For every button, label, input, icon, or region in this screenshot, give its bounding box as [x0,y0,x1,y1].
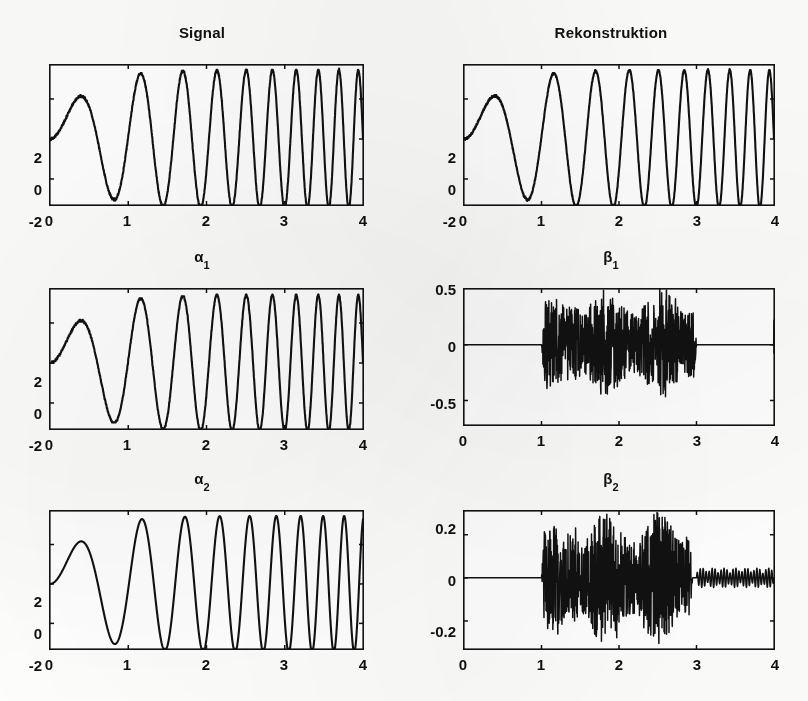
ytick-signal-2: 2 [0,149,42,166]
ytick-signal-0: 0 [0,181,42,198]
ytick-alpha1-2: 2 [0,373,42,390]
ytick-alpha2-2: 2 [0,593,42,610]
panel-title-alpha1-subscript: 1 [204,259,210,271]
xtick-beta2-1: 1 [537,656,545,673]
xtick-rekonstruktion-2: 2 [615,212,623,229]
plot-area-alpha1 [49,288,364,430]
panel-title-beta2: β2 [414,470,808,490]
xtick-beta1-1: 1 [537,432,545,449]
panel-title-beta2-text: β [603,470,612,487]
panel-title-beta1-text: β [603,248,612,265]
figure-canvas: Signal 2 0 -2 0 1 2 3 4 Rekonstruktion [0,0,808,701]
plot-svg-alpha2 [49,510,364,650]
xtick-signal-1: 1 [123,212,131,229]
xtick-alpha2-0: 0 [45,656,53,673]
xtick-rekonstruktion-3: 3 [693,212,701,229]
panel-title-rekonstruktion: Rekonstruktion [414,24,808,41]
panel-title-beta1: β1 [414,248,808,268]
panel-title-beta2-subscript: 2 [613,481,619,493]
xtick-signal-0: 0 [45,212,53,229]
ytick-beta1-0: 0 [414,338,456,355]
panel-title-alpha1: α1 [0,248,404,268]
ytick-beta2-neg: -0.2 [414,623,456,640]
plot-area-beta2 [463,510,775,650]
xtick-beta2-4: 4 [771,656,779,673]
panel-title-signal-text: Signal [179,24,225,41]
ytick-beta2-pos: 0.2 [414,520,456,537]
ytick-alpha1-0: 0 [0,405,42,422]
xtick-beta1-3: 3 [693,432,701,449]
panel-alpha2: α2 2 0 -2 0 1 2 3 4 [0,470,404,686]
xtick-alpha1-1: 1 [123,436,131,453]
plot-area-rekonstruktion [463,64,775,206]
panel-title-rekonstruktion-text: Rekonstruktion [555,24,668,41]
panel-title-alpha1-text: α [194,248,203,265]
xtick-alpha2-3: 3 [280,656,288,673]
xtick-beta2-2: 2 [615,656,623,673]
xtick-rekonstruktion-1: 1 [537,212,545,229]
xtick-alpha1-4: 4 [359,436,367,453]
ytick-signal-neg2: -2 [0,213,42,230]
xtick-signal-2: 2 [202,212,210,229]
ytick-alpha2-neg2: -2 [0,657,42,674]
xtick-alpha1-0: 0 [45,436,53,453]
panel-beta1: β1 0.5 0 -0.5 0 1 2 3 4 [414,248,808,464]
panel-signal: Signal 2 0 -2 0 1 2 3 4 [0,24,404,240]
panel-beta2: β2 0.2 0 -0.2 0 1 2 3 4 [414,470,808,686]
plot-svg-beta2 [463,510,775,650]
plot-area-alpha2 [49,510,364,650]
plot-svg-signal [49,64,364,206]
ytick-alpha2-0: 0 [0,625,42,642]
xtick-alpha1-3: 3 [280,436,288,453]
ytick-rekonstruktion-0: 0 [414,181,456,198]
xtick-beta2-0: 0 [459,656,467,673]
ytick-alpha1-neg2: -2 [0,437,42,454]
plot-area-beta1 [463,288,775,426]
panel-title-signal: Signal [0,24,404,41]
xtick-alpha1-2: 2 [202,436,210,453]
plot-svg-beta1 [463,288,775,426]
ytick-rekonstruktion-2: 2 [414,149,456,166]
plot-area-signal [49,64,364,206]
xtick-alpha2-1: 1 [123,656,131,673]
xtick-alpha2-4: 4 [359,656,367,673]
panel-title-alpha2: α2 [0,470,404,490]
xtick-rekonstruktion-0: 0 [459,212,467,229]
panel-rekonstruktion: Rekonstruktion 2 0 -2 0 1 2 3 4 [414,24,808,240]
xtick-rekonstruktion-4: 4 [771,212,779,229]
panel-title-alpha2-subscript: 2 [204,481,210,493]
plot-svg-alpha1 [49,288,364,430]
xtick-beta2-3: 3 [693,656,701,673]
xtick-alpha2-2: 2 [202,656,210,673]
ytick-beta1-neg: -0.5 [414,395,456,412]
plot-svg-rekonstruktion [463,64,775,206]
panel-alpha1: α1 2 0 -2 0 1 2 3 4 [0,248,404,464]
ytick-rekonstruktion-neg2: -2 [414,213,456,230]
ytick-beta1-pos: 0.5 [414,281,456,298]
xtick-signal-4: 4 [359,212,367,229]
xtick-beta1-2: 2 [615,432,623,449]
xtick-signal-3: 3 [280,212,288,229]
xtick-beta1-4: 4 [771,432,779,449]
panel-title-beta1-subscript: 1 [613,259,619,271]
xtick-beta1-0: 0 [459,432,467,449]
ytick-beta2-0: 0 [414,572,456,589]
panel-title-alpha2-text: α [194,470,203,487]
